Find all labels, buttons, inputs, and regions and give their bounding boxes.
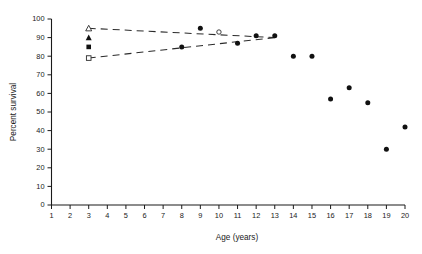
x-axis-group: 1234567891011121314151617181920: [49, 205, 409, 220]
data-point-filled-circle: [365, 100, 370, 105]
trend-line: [89, 28, 275, 37]
x-tick-label: 14: [289, 211, 297, 220]
x-tick-label: 12: [252, 211, 260, 220]
x-tick-label: 17: [345, 211, 353, 220]
data-point-filled-circle: [309, 54, 314, 59]
y-axis-title: Percent survival: [9, 83, 18, 141]
y-tick-label: 30: [36, 145, 44, 154]
x-tick-label: 3: [87, 211, 91, 220]
data-point-filled-circle: [347, 85, 352, 90]
x-tick-label: 18: [364, 211, 372, 220]
data-point-filled-circle: [328, 96, 333, 101]
data-point-filled-circle: [403, 124, 408, 129]
data-point-filled-circle: [291, 54, 296, 59]
x-tick-label: 15: [308, 211, 316, 220]
x-tick-label: 5: [124, 211, 128, 220]
y-tick-label: 70: [36, 70, 44, 79]
x-tick-label: 8: [180, 211, 184, 220]
marker-filled-square: [86, 45, 91, 50]
data-point-group: [86, 25, 408, 151]
y-tick-label: 50: [36, 107, 44, 116]
x-tick-label: 2: [68, 211, 72, 220]
data-point-filled-circle: [254, 33, 259, 38]
y-axis-group: 0102030405060708090100: [32, 14, 51, 209]
x-tick-label: 4: [105, 211, 109, 220]
y-tick-label: 20: [36, 163, 44, 172]
data-point-filled-circle: [198, 26, 203, 31]
x-tick-label: 13: [271, 211, 279, 220]
x-tick-label: 7: [161, 211, 165, 220]
data-point-filled-circle: [235, 41, 240, 46]
x-tick-label: 16: [326, 211, 334, 220]
trend-line-group: [89, 28, 275, 58]
data-point-filled-circle: [384, 147, 389, 152]
x-tick-label: 19: [382, 211, 390, 220]
y-tick-label: 100: [32, 14, 44, 23]
x-tick-label: 20: [401, 211, 409, 220]
x-axis-title: Age (years): [216, 233, 259, 242]
x-tick-label: 6: [142, 211, 146, 220]
y-tick-label: 60: [36, 89, 44, 98]
chart-canvas: 0102030405060708090100 12345678910111213…: [0, 0, 422, 254]
y-tick-group: 0102030405060708090100: [32, 14, 51, 209]
y-tick-label: 90: [36, 33, 44, 42]
y-tick-label: 40: [36, 126, 44, 135]
y-tick-label: 0: [40, 200, 44, 209]
y-tick-label: 80: [36, 52, 44, 61]
marker-open-square: [86, 56, 91, 61]
x-tick-group: 1234567891011121314151617181920: [49, 205, 409, 220]
y-tick-label: 10: [36, 182, 44, 191]
data-point-open-circle: [217, 30, 221, 34]
x-tick-label: 10: [215, 211, 223, 220]
x-tick-label: 9: [198, 211, 202, 220]
marker-filled-triangle: [86, 35, 92, 41]
x-tick-label: 11: [234, 211, 242, 220]
x-tick-label: 1: [49, 211, 53, 220]
survival-scatter-chart: 0102030405060708090100 12345678910111213…: [0, 0, 422, 254]
data-point-filled-circle: [179, 44, 184, 49]
data-point-filled-circle: [272, 33, 277, 38]
